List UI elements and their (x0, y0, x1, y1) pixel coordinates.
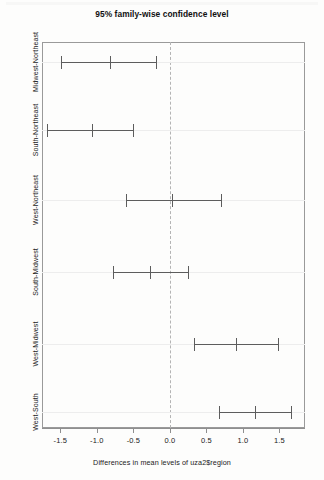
x-axis-tick-label: 1.0 (223, 436, 263, 445)
x-axis-line (42, 428, 305, 429)
interval-center-mark (236, 338, 237, 351)
y-axis-label: West-South (32, 352, 39, 472)
x-axis-tick-label: -1.5 (40, 436, 80, 445)
interval-lower-cap (113, 266, 114, 279)
x-axis-tick (60, 428, 61, 433)
interval-lower-cap (219, 406, 220, 419)
chart-title: 95% family-wise confidence level (0, 9, 324, 19)
interval-upper-cap (278, 338, 279, 351)
x-axis-tick (133, 428, 134, 433)
interval-center-mark (172, 194, 173, 207)
interval-lower-cap (61, 56, 62, 69)
interval-upper-cap (133, 124, 134, 137)
x-axis-tick-label: -0.5 (113, 436, 153, 445)
interval-upper-cap (291, 406, 292, 419)
interval-bar (47, 130, 132, 131)
x-axis-tick (206, 428, 207, 433)
scan-artifact (6, 2, 318, 5)
interval-lower-cap (126, 194, 127, 207)
interval-bar (61, 62, 156, 63)
x-axis-label: Differences in mean levels of uza2$regio… (0, 458, 324, 467)
x-axis-tick-label: 1.5 (259, 436, 299, 445)
interval-lower-cap (47, 124, 48, 137)
chart-page: 95% family-wise confidence level Midwest… (0, 0, 324, 480)
interval-center-mark (255, 406, 256, 419)
interval-center-mark (110, 56, 111, 69)
interval-lower-cap (194, 338, 195, 351)
interval-upper-cap (156, 56, 157, 69)
x-axis-tick (279, 428, 280, 433)
interval-upper-cap (221, 194, 222, 207)
interval-center-mark (150, 266, 151, 279)
x-axis-tick (243, 428, 244, 433)
plot-area (42, 42, 305, 428)
x-axis-tick-label: -1.0 (77, 436, 117, 445)
interval-bar (126, 200, 221, 201)
x-axis-tick (97, 428, 98, 433)
x-axis-tick-label: 0.0 (150, 436, 190, 445)
x-axis-tick (170, 428, 171, 433)
interval-upper-cap (188, 266, 189, 279)
zero-reference-line (170, 42, 171, 428)
x-axis-tick-label: 0.5 (186, 436, 226, 445)
interval-center-mark (92, 124, 93, 137)
